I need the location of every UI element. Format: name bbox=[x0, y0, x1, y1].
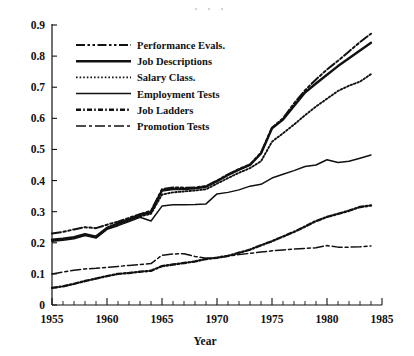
x-tick-label: 1970 bbox=[206, 313, 229, 325]
legend-label-employment-tests: Employment Tests bbox=[137, 89, 220, 100]
x-tick-label: 1960 bbox=[96, 313, 119, 325]
y-tick-label: 0.3 bbox=[31, 206, 46, 218]
x-tick-label: 1985 bbox=[371, 313, 394, 325]
x-axis-tick-labels: 1955196019651970197519801985 bbox=[41, 313, 394, 325]
y-tick-label: 0.6 bbox=[31, 112, 46, 124]
y-tick-label: 0.7 bbox=[31, 81, 46, 93]
legend-label-performance-evals: Performance Evals. bbox=[137, 40, 225, 51]
x-tick-label: 1955 bbox=[41, 313, 64, 325]
legend-label-job-ladders: Job Ladders bbox=[137, 105, 193, 116]
y-tick-label: 0.9 bbox=[31, 19, 46, 31]
legend-label-promotion-tests: Promotion Tests bbox=[137, 121, 209, 132]
y-tick-label: 0.2 bbox=[31, 237, 46, 249]
x-tick-label: 1980 bbox=[316, 313, 339, 325]
y-tick-label: 0.5 bbox=[31, 143, 46, 155]
x-tick-label: 1965 bbox=[151, 313, 174, 325]
series-line-employment-tests bbox=[52, 155, 371, 241]
legend-label-salary-class: Salary Class. bbox=[137, 72, 196, 83]
x-axis-title: Year bbox=[194, 335, 217, 347]
series-line-promotion-tests bbox=[52, 246, 371, 274]
legend-label-job-descriptions: Job Descriptions bbox=[137, 56, 212, 67]
y-axis-tick-labels: 00.10.20.30.40.50.60.70.80.9 bbox=[31, 19, 46, 311]
y-tick-label: 0.8 bbox=[31, 50, 46, 62]
y-tick-label: 0.1 bbox=[31, 268, 46, 280]
scan-artifacts bbox=[195, 8, 223, 10]
chart-legend: Performance Evals.Job DescriptionsSalary… bbox=[76, 40, 225, 132]
line-chart: 00.10.20.30.40.50.60.70.80.9 19551960196… bbox=[0, 0, 414, 356]
chart-container: 00.10.20.30.40.50.60.70.80.9 19551960196… bbox=[0, 0, 414, 356]
x-tick-label: 1975 bbox=[261, 313, 284, 325]
data-series-group bbox=[52, 34, 371, 288]
y-tick-label: 0 bbox=[39, 299, 45, 311]
y-tick-label: 0.4 bbox=[31, 175, 46, 187]
axis-ticks bbox=[52, 25, 382, 305]
